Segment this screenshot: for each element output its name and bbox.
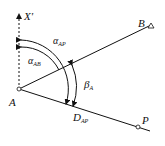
arc-beta-a xyxy=(72,65,76,106)
point-a-marker xyxy=(17,87,21,91)
axis-label: X' xyxy=(23,10,34,22)
point-b-label: B xyxy=(138,17,145,29)
point-a-label: A xyxy=(8,96,16,108)
alpha-ap-label: αAP xyxy=(53,35,66,47)
point-p-label: P xyxy=(141,114,149,126)
alpha-ab-label: αAB xyxy=(28,55,41,67)
survey-diagram: X' A B P αAP αAB βA DAP xyxy=(0,0,165,146)
arc-alpha-ap xyxy=(21,40,68,104)
beta-a-label: βA xyxy=(83,78,93,91)
line-ap xyxy=(19,89,150,131)
distance-label: DAP xyxy=(72,111,89,124)
point-p-marker xyxy=(136,125,140,129)
point-b-marker xyxy=(148,23,154,28)
